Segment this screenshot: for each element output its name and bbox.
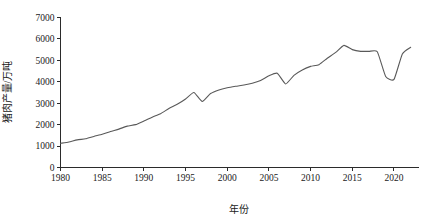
x-tick-label: 2020 bbox=[384, 173, 403, 183]
line-chart: 01000200030004000500060007000 1980198519… bbox=[0, 0, 427, 221]
y-tick-label: 3000 bbox=[36, 99, 55, 109]
x-tick-label: 2010 bbox=[301, 173, 320, 183]
y-tick-label: 0 bbox=[50, 163, 55, 173]
y-tick-label: 1000 bbox=[36, 141, 55, 151]
x-axis-title: 年份 bbox=[229, 203, 249, 215]
x-tick-label: 1985 bbox=[93, 173, 112, 183]
y-tick-label: 5000 bbox=[36, 56, 55, 66]
chart-container: 01000200030004000500060007000 1980198519… bbox=[0, 0, 427, 221]
x-tick-label: 2000 bbox=[218, 173, 237, 183]
y-axis: 01000200030004000500060007000 bbox=[36, 13, 61, 173]
y-tick-label: 2000 bbox=[36, 120, 55, 130]
data-series-group bbox=[61, 45, 411, 143]
x-axis: 198019851990199520002005201020152020 bbox=[51, 168, 419, 184]
x-tick-label: 2015 bbox=[343, 173, 362, 183]
y-tick-label: 4000 bbox=[36, 77, 55, 87]
x-tick-label: 1990 bbox=[134, 173, 153, 183]
x-tick-label: 1980 bbox=[51, 173, 70, 183]
y-axis-title: 猪肉产量/万吨 bbox=[1, 61, 13, 124]
series-line-pork-production bbox=[61, 45, 411, 143]
x-tick-label: 1995 bbox=[176, 173, 195, 183]
y-tick-label: 6000 bbox=[36, 34, 55, 44]
y-tick-label: 7000 bbox=[36, 13, 55, 23]
x-tick-label: 2005 bbox=[259, 173, 278, 183]
